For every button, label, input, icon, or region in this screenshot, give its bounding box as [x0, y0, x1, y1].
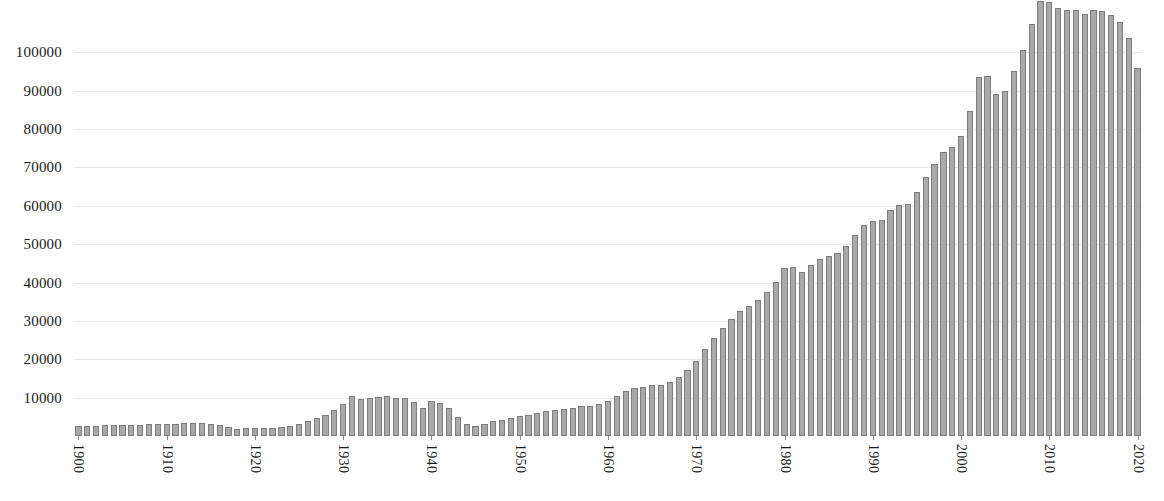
bar: [119, 425, 125, 436]
bar: [93, 426, 99, 436]
bar: [702, 349, 708, 436]
bar: [1082, 14, 1088, 436]
y-axis-tick-label: 60000: [24, 197, 63, 214]
y-axis-tick-label: 50000: [24, 236, 63, 253]
x-axis-tick-mark: [961, 436, 962, 440]
bar: [384, 396, 390, 436]
y-axis-tick-label: 90000: [24, 82, 63, 99]
bar: [340, 404, 346, 436]
bar: [181, 423, 187, 436]
x-axis-tick-label: 1910: [159, 444, 175, 473]
y-axis-labels: 1000020000300004000050000600007000080000…: [0, 0, 74, 436]
bar: [781, 268, 787, 436]
bar: [993, 94, 999, 436]
x-axis-tick-mark: [1049, 436, 1050, 440]
bar: [693, 361, 699, 436]
x-axis-tick-label: 2010: [1041, 444, 1057, 473]
bar: [852, 235, 858, 437]
bar: [826, 256, 832, 436]
x-axis-tick-mark: [608, 436, 609, 440]
bar: [631, 388, 637, 436]
bar: [958, 136, 964, 436]
bar: [817, 259, 823, 436]
x-axis-tick-mark: [431, 436, 432, 440]
bar: [667, 382, 673, 436]
bar: [508, 418, 514, 436]
bar: [658, 385, 664, 436]
bar: [278, 427, 284, 436]
x-axis-tick-label: 1980: [777, 444, 793, 473]
bar: [155, 424, 161, 436]
bar: [711, 338, 717, 436]
bar: [578, 406, 584, 436]
bar: [561, 409, 567, 436]
y-axis-tick-label: 10000: [24, 389, 63, 406]
y-axis-tick-label: 30000: [24, 312, 63, 329]
bar: [720, 328, 726, 436]
bar: [1126, 38, 1132, 436]
bar: [225, 427, 231, 436]
bar: [1037, 1, 1043, 436]
x-axis-tick-mark: [167, 436, 168, 440]
bar: [172, 424, 178, 436]
x-axis-tick-label: 1900: [70, 444, 86, 473]
bar: [437, 403, 443, 436]
x-axis-tick-mark: [78, 436, 79, 440]
bar: [269, 428, 275, 436]
bar: [755, 300, 761, 436]
bar: [128, 425, 134, 437]
bar: [402, 398, 408, 436]
bar: [252, 428, 258, 436]
x-axis-tick-mark: [1138, 436, 1139, 440]
bar: [808, 265, 814, 436]
x-axis-tick-label: 1970: [688, 444, 704, 473]
bar: [84, 426, 90, 436]
bar: [137, 425, 143, 437]
x-axis-tick-label: 1990: [865, 444, 881, 473]
bar: [146, 424, 152, 436]
bar: [896, 205, 902, 436]
bar: [331, 410, 337, 436]
bar: [587, 406, 593, 436]
bar: [931, 164, 937, 437]
bar: [208, 424, 214, 436]
bar: [790, 267, 796, 436]
bar: [684, 370, 690, 436]
bar: [111, 425, 117, 436]
bar: [1055, 8, 1061, 436]
bar: [1108, 15, 1114, 436]
bar: [640, 387, 646, 436]
x-axis-tick-label: 1920: [247, 444, 263, 473]
bar: [728, 319, 734, 436]
bar: [499, 420, 505, 436]
bar: [1029, 24, 1035, 436]
x-axis-tick-label: 1950: [512, 444, 528, 473]
bar: [879, 220, 885, 436]
bar: [367, 398, 373, 436]
plot-area: [74, 0, 1142, 436]
bar: [799, 272, 805, 436]
bar: [870, 221, 876, 436]
y-axis-tick-label: 80000: [24, 121, 63, 138]
y-axis-tick-label: 20000: [24, 351, 63, 368]
bar: [940, 152, 946, 436]
bar: [1090, 10, 1096, 436]
bar-chart: 1000020000300004000050000600007000080000…: [0, 0, 1164, 501]
bar: [472, 426, 478, 436]
x-axis-tick-label: 1940: [423, 444, 439, 473]
bar: [490, 421, 496, 436]
x-axis-tick-mark: [255, 436, 256, 440]
x-axis-tick-mark: [785, 436, 786, 440]
bar: [322, 415, 328, 436]
bar: [614, 396, 620, 436]
bar: [75, 426, 81, 436]
bar: [261, 428, 267, 436]
bar: [543, 411, 549, 436]
bar: [1011, 71, 1017, 436]
bar: [517, 416, 523, 436]
bar: [1002, 91, 1008, 436]
bar: [843, 246, 849, 436]
bar: [649, 385, 655, 436]
bar: [358, 399, 364, 436]
bar: [623, 391, 629, 436]
